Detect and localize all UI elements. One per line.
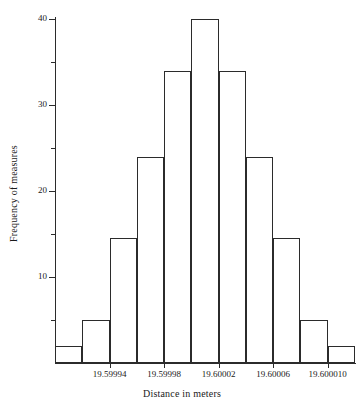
histogram-bar (328, 346, 355, 363)
x-tick-label: 19.600010 (309, 370, 347, 379)
histogram-bar (219, 71, 246, 363)
x-tick (219, 363, 220, 368)
histogram-bar (55, 346, 82, 363)
histogram-bar (273, 238, 300, 363)
x-tick (328, 363, 329, 368)
x-tick (110, 363, 111, 368)
histogram-bars (55, 14, 356, 363)
x-tick-label: 19.60006 (256, 370, 290, 379)
x-tick (164, 363, 165, 368)
x-axis-title: Distance in meters (0, 388, 364, 399)
histogram-bar (137, 157, 164, 363)
x-tick-label: 19.60002 (202, 370, 236, 379)
x-tick-label: 19.59994 (93, 370, 127, 379)
x-tick (273, 363, 274, 368)
x-tick-label: 19.59998 (147, 370, 181, 379)
y-tick-label: 40 (0, 14, 47, 23)
histogram-bar (110, 238, 137, 363)
x-axis-line (55, 363, 356, 364)
y-axis-title: Frequency of measures (8, 104, 19, 284)
histogram-bar (191, 19, 218, 363)
histogram-bar (82, 320, 109, 363)
histogram-figure: 10203040 19.5999419.5999819.6000219.6000… (0, 0, 364, 416)
histogram-bar (246, 157, 273, 363)
histogram-bar (164, 71, 191, 363)
histogram-bar (300, 320, 327, 363)
